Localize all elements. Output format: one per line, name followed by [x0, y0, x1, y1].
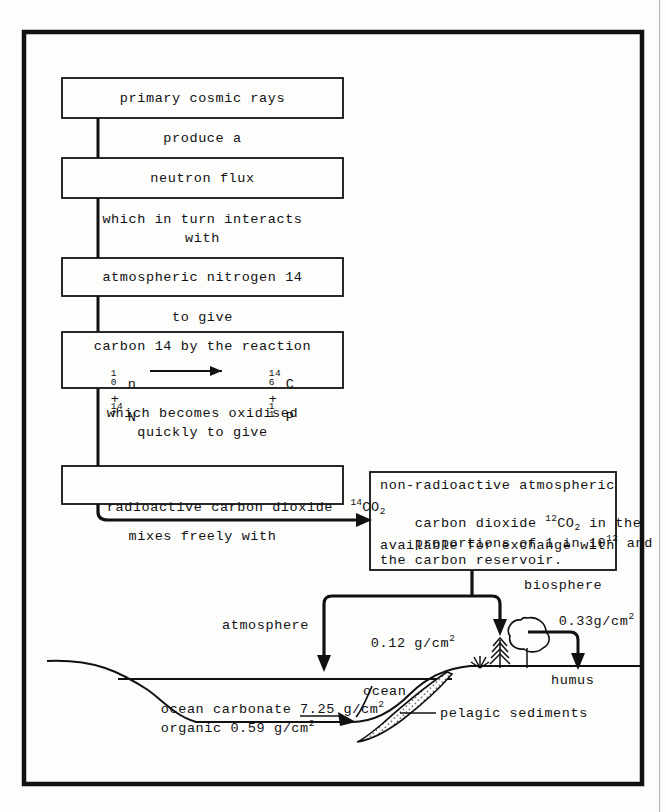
box-label-primary-cosmic-rays: primary cosmic rays — [62, 90, 343, 107]
atmosphere-exponent: 2 — [449, 633, 455, 644]
label-atmosphere: atmosphere — [222, 618, 309, 633]
note-to-give: to give — [62, 308, 343, 327]
ocean-organic-exponent: 2 — [309, 718, 315, 729]
value-biosphere: 0.33g/cm2 — [524, 596, 634, 644]
box-label-carbon-14-reaction: carbon 14 by the reaction — [62, 338, 343, 355]
label-ocean: ocean — [363, 684, 407, 699]
label-ocean-organic: organic 0.59 g/cm2 — [126, 703, 315, 751]
reactant-neutron-symbol: n — [128, 377, 137, 392]
product-carbon: 146 — [269, 374, 286, 388]
note-produce-a: produce a — [62, 129, 343, 148]
reservoir-line-1: non-radioactive atmospheric — [380, 478, 615, 493]
value-atmosphere: 0.12 g/cm2 — [336, 618, 455, 666]
reaction-arrow — [150, 366, 222, 376]
note-which-in-turn-interacts: which in turn interacts — [62, 210, 343, 229]
note-quickly-to-give: quickly to give — [62, 423, 343, 442]
reservoir-line-4: available for exchange with — [380, 538, 615, 553]
ocean-carbonate-exponent: 2 — [378, 699, 384, 710]
co2-symbol: CO — [362, 500, 379, 515]
ocean-organic-text: organic 0.59 g/cm — [161, 721, 309, 736]
reservoir-line-5: the carbon reservoir. — [380, 553, 563, 568]
box-label-atmospheric-nitrogen: atmospheric nitrogen 14 — [62, 269, 343, 286]
biosphere-value: 0.33g/cm — [559, 614, 629, 629]
co2-mass-number: 14 — [350, 497, 362, 508]
label-biosphere: biosphere — [524, 578, 602, 593]
label-humus: humus — [551, 673, 595, 688]
note-with: with — [62, 229, 343, 248]
reservoir-line-3b: and — [627, 536, 653, 551]
atmosphere-value: 0.12 g/cm — [371, 636, 449, 651]
radioactive-co2-text: radioactive carbon dioxide — [107, 500, 333, 515]
note-which-becomes-oxidised: which becomes oxidised — [62, 404, 343, 423]
product-carbon-symbol: C — [286, 377, 295, 392]
biosphere-exponent: 2 — [628, 611, 634, 622]
note-mixes-freely-with: mixes freely with — [62, 527, 343, 546]
box-label-neutron-flux: neutron flux — [62, 170, 343, 187]
label-pelagic-sediments: pelagic sediments — [440, 706, 588, 721]
page-canvas: primary cosmic rays produce a neutron fl… — [0, 0, 666, 812]
conifer-tree-icon — [490, 638, 510, 668]
reactant-neutron: 10 — [111, 374, 128, 388]
